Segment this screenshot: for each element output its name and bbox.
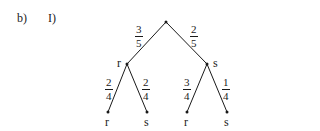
prob-root-r: 3 5 bbox=[135, 24, 143, 49]
node-s bbox=[206, 63, 209, 66]
prob-s-r: 3 4 bbox=[183, 77, 191, 102]
leaf-s-r-label: r bbox=[184, 116, 188, 128]
prob-r-r: 2 4 bbox=[105, 77, 113, 102]
leaf-r-s-label: s bbox=[144, 116, 149, 128]
prob-root-s: 2 5 bbox=[190, 24, 198, 49]
leaf-r-r-label: r bbox=[105, 116, 109, 128]
leaf-s-s bbox=[226, 111, 229, 114]
leaf-r-s bbox=[146, 111, 149, 114]
branch-root-r bbox=[127, 22, 166, 64]
node-s-label: s bbox=[213, 57, 218, 69]
prob-r-s: 2 4 bbox=[142, 77, 150, 102]
branch-root-s bbox=[166, 22, 207, 64]
prob-s-s: 1 4 bbox=[222, 77, 230, 102]
root-node bbox=[165, 21, 168, 24]
leaf-r-r bbox=[107, 111, 110, 114]
leaf-s-s-label: s bbox=[224, 116, 229, 128]
leaf-s-r bbox=[186, 111, 189, 114]
node-r-label: r bbox=[117, 57, 121, 69]
node-r bbox=[126, 63, 129, 66]
